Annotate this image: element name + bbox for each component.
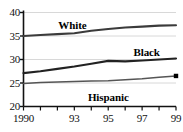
series-line-hispanic <box>24 76 177 84</box>
x-tick-label-1997: 97 <box>133 113 151 124</box>
x-tick-label-1995: 95 <box>99 113 117 124</box>
x-tick-label-1993: 93 <box>65 113 83 124</box>
x-tick-label-1999: 99 <box>167 113 183 124</box>
y-tick-label-35: 35 <box>0 31 20 42</box>
series-end-markers <box>174 74 178 78</box>
series-line-black <box>24 59 177 74</box>
y-tick-label-40: 40 <box>0 7 20 18</box>
series-label-hispanic: Hispanic <box>88 92 129 103</box>
line-chart: 2025303540 199093959799 WhiteBlackHispan… <box>0 0 183 132</box>
series-label-black: Black <box>133 47 159 58</box>
y-tick-label-20: 20 <box>0 101 20 112</box>
series-label-white: White <box>58 20 86 31</box>
end-marker-hispanic <box>174 74 178 78</box>
y-tick-label-25: 25 <box>0 78 20 89</box>
y-tick-label-30: 30 <box>0 54 20 65</box>
x-tick-label-1990: 1990 <box>8 113 40 124</box>
series-line-white <box>24 25 177 36</box>
